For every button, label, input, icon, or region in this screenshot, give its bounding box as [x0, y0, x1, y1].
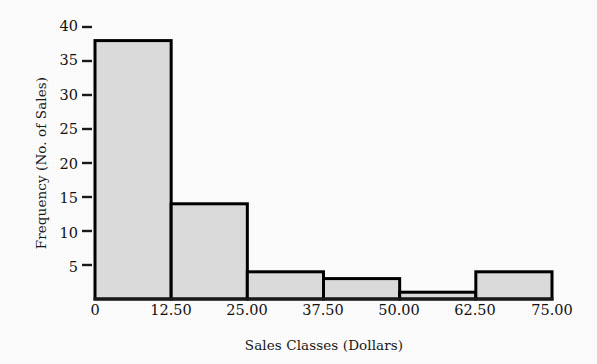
histogram-figure: Frequency (No. of Sales) 40 35 30 25 20 …: [0, 0, 597, 364]
histogram-bar: [324, 279, 400, 299]
histogram-bar: [171, 204, 247, 299]
histogram-bar: [476, 272, 552, 299]
histogram-bar: [95, 41, 171, 299]
y-tick-marks: [82, 27, 92, 265]
histogram-bar: [247, 272, 323, 299]
histogram-bars: [94, 41, 554, 299]
plot-area: [0, 0, 597, 364]
